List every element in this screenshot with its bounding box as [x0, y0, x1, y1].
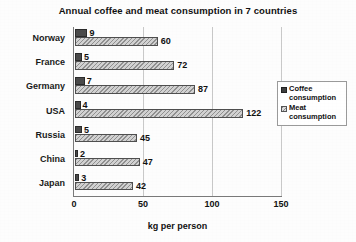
x-axis-tick-labels: 050100150: [0, 199, 356, 213]
bar-meat: [75, 61, 174, 70]
bar-group: 247: [74, 148, 281, 172]
legend-label-meat-line2: consumption: [281, 113, 343, 122]
category-label: Japan: [0, 178, 65, 188]
plot-area: 9605727874122545247342: [74, 27, 281, 196]
x-tick-label: 100: [192, 199, 232, 209]
bar-value-meat: 42: [136, 181, 146, 191]
chart-legend: Coffee consumption Meat consumption: [277, 81, 347, 126]
bar-value-meat: 87: [198, 84, 208, 94]
category-label: France: [0, 57, 65, 67]
bar-coffee: [75, 174, 79, 182]
coffee-swatch-icon: [281, 87, 287, 93]
bar-group: 960: [74, 27, 281, 51]
category-label: Russia: [0, 130, 65, 140]
meat-swatch-icon: [281, 106, 287, 112]
bar-group: 342: [74, 172, 281, 196]
chart-figure: Annual coffee and meat consumption in 7 …: [0, 0, 356, 242]
bar-coffee: [75, 29, 87, 37]
category-label: Germany: [0, 81, 65, 91]
bar-coffee: [75, 77, 85, 85]
bar-value-meat: 60: [161, 36, 171, 46]
bar-meat: [75, 109, 243, 118]
bar-meat: [75, 85, 195, 94]
bar-meat: [75, 37, 158, 46]
category-label: Norway: [0, 33, 65, 43]
x-tick-label: 0: [54, 199, 94, 209]
x-tick-label: 150: [261, 199, 301, 209]
bar-value-meat: 72: [177, 60, 187, 70]
bar-group: 4122: [74, 99, 281, 123]
bar-value-meat: 122: [246, 108, 261, 118]
bar-meat: [75, 182, 133, 191]
category-label: China: [0, 154, 65, 164]
bar-meat: [75, 134, 137, 143]
x-tick-label: 50: [123, 199, 163, 209]
bar-coffee: [75, 53, 82, 61]
x-axis-title: kg per person: [74, 221, 281, 231]
category-axis-labels: NorwayFranceGermanyUSARussiaChinaJapan: [0, 27, 70, 196]
bar-value-meat: 47: [143, 157, 153, 167]
bar-group: 572: [74, 51, 281, 75]
bar-value-meat: 45: [140, 133, 150, 143]
bar-group: 787: [74, 75, 281, 99]
chart-title: Annual coffee and meat consumption in 7 …: [0, 5, 356, 16]
x-axis-line: [73, 196, 282, 197]
bar-meat: [75, 158, 140, 167]
bar-coffee: [75, 101, 81, 109]
bar-coffee: [75, 150, 78, 158]
legend-label-coffee-line2: consumption: [281, 94, 343, 103]
bar-coffee: [75, 126, 82, 134]
bar-group: 545: [74, 124, 281, 148]
legend-item-coffee: Coffee consumption: [281, 85, 343, 102]
category-label: USA: [0, 106, 65, 116]
legend-item-meat: Meat consumption: [281, 104, 343, 121]
